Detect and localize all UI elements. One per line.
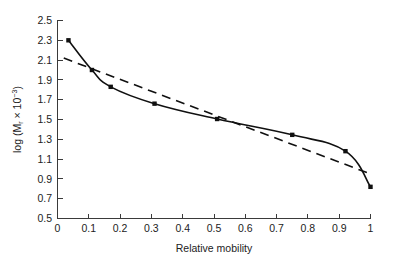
data-point-marker — [152, 101, 156, 105]
chart-figure: 0.5 0.7 0.9 1.1 1.3 1.5 1.7 1.9 2.1 2.3 … — [0, 0, 396, 268]
y-tick-label: 1.3 — [37, 133, 52, 145]
x-tick-label: 0 — [55, 222, 61, 234]
y-tick-labels: 0.5 0.7 0.9 1.1 1.3 1.5 1.7 1.9 2.1 2.3 … — [37, 14, 52, 224]
y-axis-title: log (Mr × 10−3) — [10, 86, 25, 153]
y-tick-label: 1.7 — [37, 93, 52, 105]
series-line-standard-curve — [68, 40, 370, 187]
x-tick-label: 0.2 — [113, 222, 128, 234]
y-tick-label: 2.1 — [37, 54, 52, 66]
y-tick-label: 0.7 — [37, 192, 52, 204]
x-tick-label: 0.8 — [301, 222, 316, 234]
x-tick-label: 0.3 — [144, 222, 159, 234]
series-line-linear-fit — [64, 58, 371, 174]
axis-lines — [58, 20, 372, 219]
y-axis-title-prefix: log (M — [11, 124, 23, 153]
y-axis-title-suffix: ) — [11, 86, 23, 90]
x-tick-label: 0.5 — [207, 222, 222, 234]
y-tick-label: 0.9 — [37, 173, 52, 185]
chart-plot-area: 0.5 0.7 0.9 1.1 1.3 1.5 1.7 1.9 2.1 2.3 … — [0, 0, 396, 268]
y-tick-label: 2.3 — [37, 34, 52, 46]
y-tick-label: 0.5 — [37, 212, 52, 224]
data-point-marker — [66, 38, 70, 42]
data-point-marker — [368, 185, 372, 189]
x-tick-labels: 0 0.1 0.2 0.3 0.4 0.5 0.6 0.7 0.8 0.9 1 — [55, 222, 374, 234]
x-tick-label: 0.4 — [175, 222, 190, 234]
x-tick-label: 0.6 — [238, 222, 253, 234]
data-point-marker — [343, 149, 347, 153]
x-tick-label: 0.7 — [269, 222, 284, 234]
y-tick-marks — [58, 21, 63, 219]
data-series-layer — [64, 38, 373, 189]
x-tick-label: 1 — [368, 222, 374, 234]
x-tick-marks — [58, 214, 371, 219]
y-tick-label: 1.5 — [37, 113, 52, 125]
y-tick-label: 1.1 — [37, 153, 52, 165]
y-tick-label: 1.9 — [37, 74, 52, 86]
data-point-marker — [109, 85, 113, 89]
y-axis-title-superscript: −3 — [10, 90, 19, 98]
x-axis-title: Relative mobility — [176, 242, 253, 254]
x-tick-label: 0.1 — [81, 222, 96, 234]
y-tick-label: 2.5 — [37, 14, 52, 26]
data-point-marker — [290, 133, 294, 137]
x-tick-label: 0.9 — [332, 222, 347, 234]
y-axis-title-middle: × 10 — [11, 98, 23, 122]
